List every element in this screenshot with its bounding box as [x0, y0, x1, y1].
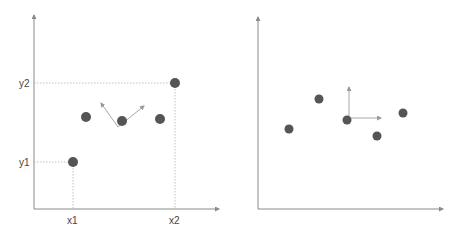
label-y1: y1	[19, 157, 30, 168]
data-point	[68, 157, 78, 167]
data-point	[117, 116, 127, 126]
diagram-canvas: y2 y1 x1 x2	[0, 0, 457, 238]
label-x1: x1	[67, 215, 78, 226]
data-point	[399, 109, 408, 118]
data-point	[373, 132, 382, 141]
data-point	[285, 125, 294, 134]
data-point	[343, 116, 352, 125]
data-point	[155, 114, 165, 124]
right-scatter-panel	[258, 17, 443, 209]
label-y2: y2	[19, 78, 30, 89]
data-point	[81, 112, 91, 122]
data-point	[315, 95, 324, 104]
figure-caption	[140, 229, 320, 238]
data-point	[170, 78, 180, 88]
vector-arrow-left	[101, 103, 118, 127]
label-x2: x2	[169, 215, 180, 226]
left-scatter-panel: y2 y1 x1 x2	[19, 15, 219, 226]
